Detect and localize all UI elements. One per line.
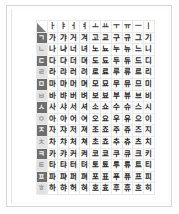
syllable-cell: 뉴 <box>122 44 133 56</box>
syllable-cell: 초 <box>90 136 101 148</box>
column-header-vowel: ㅑ <box>58 21 69 33</box>
syllable-cell: 티 <box>143 160 154 172</box>
syllable-cell: 키 <box>143 148 154 160</box>
syllable-cell: 버 <box>69 90 80 102</box>
syllable-cell: 큐 <box>122 148 133 160</box>
syllable-cell: 토 <box>90 160 101 172</box>
column-header-vowel: ㅓ <box>69 21 80 33</box>
table-header: ㅏ ㅑ ㅓ ㅕ ㅗ ㅛ ㅜ ㅠ ㅡ ㅣ <box>37 21 155 33</box>
syllable-cell: 고 <box>90 32 101 44</box>
syllable-cell: 햐 <box>58 183 69 195</box>
syllable-cell: 댜 <box>58 55 69 67</box>
table-row: ㅁ마먀머며모묘무뮤므미 <box>37 78 155 90</box>
syllable-cell: 벼 <box>79 90 90 102</box>
row-header-consonant: ㅇ <box>37 113 48 125</box>
row-header-consonant: ㅋ <box>37 148 48 160</box>
syllable-cell: 처 <box>69 136 80 148</box>
syllable-cell: 미 <box>143 78 154 90</box>
column-header-vowel: ㅏ <box>47 21 58 33</box>
syllable-cell: 추 <box>111 136 122 148</box>
diagonal-triangle-icon <box>37 23 46 32</box>
syllable-cell: 터 <box>69 160 80 172</box>
syllable-cell: 노 <box>90 44 101 56</box>
syllable-cell: 으 <box>133 113 144 125</box>
syllable-cell: 듀 <box>122 55 133 67</box>
syllable-cell: 혀 <box>79 183 90 195</box>
syllable-cell: 기 <box>143 32 154 44</box>
syllable-cell: 갸 <box>58 32 69 44</box>
row-header-consonant: ㄱ <box>37 32 48 44</box>
syllable-cell: 서 <box>69 102 80 114</box>
syllable-cell: 튜 <box>122 160 133 172</box>
syllable-cell: 너 <box>69 44 80 56</box>
syllable-cell: 츠 <box>133 136 144 148</box>
syllable-cell: 펴 <box>79 171 90 183</box>
syllable-cell: 요 <box>101 113 112 125</box>
syllable-cell: 규 <box>122 32 133 44</box>
syllable-cell: 쿠 <box>111 148 122 160</box>
syllable-cell: 텨 <box>79 160 90 172</box>
syllable-cell: 모 <box>90 78 101 90</box>
syllable-cell: 됴 <box>101 55 112 67</box>
syllable-cell: 두 <box>111 55 122 67</box>
column-header-vowel: ㅗ <box>90 21 101 33</box>
syllable-cell: 교 <box>101 32 112 44</box>
row-header-consonant: ㅍ <box>37 171 48 183</box>
syllable-cell: 코 <box>90 148 101 160</box>
row-header-consonant: ㅊ <box>37 136 48 148</box>
syllable-cell: 랴 <box>58 67 69 79</box>
syllable-cell: 쵸 <box>101 136 112 148</box>
syllable-cell: 므 <box>133 78 144 90</box>
syllable-cell: 도 <box>90 55 101 67</box>
syllable-cell: 머 <box>69 78 80 90</box>
table-row: ㅋ카캬커켜코쿄쿠큐크키 <box>37 148 155 160</box>
syllable-cell: 뱌 <box>58 90 69 102</box>
syllable-cell: 휴 <box>122 183 133 195</box>
column-header-vowel: ㅜ <box>111 21 122 33</box>
syllable-cell: 져 <box>79 125 90 137</box>
table-row: ㅈ자쟈저져조죠주쥬즈지 <box>37 125 155 137</box>
syllable-cell: 뇨 <box>101 44 112 56</box>
syllable-cell: 히 <box>143 183 154 195</box>
syllable-cell: 며 <box>79 78 90 90</box>
syllable-cell: 라 <box>47 67 58 79</box>
row-header-consonant: ㄹ <box>37 67 48 79</box>
table-row: ㅎ하햐허혀호효후휴흐히 <box>37 183 155 195</box>
row-header-consonant: ㄴ <box>37 44 48 56</box>
syllable-cell: 뷰 <box>122 90 133 102</box>
syllable-cell: 쥬 <box>122 125 133 137</box>
syllable-cell: 피 <box>143 171 154 183</box>
row-header-consonant: ㅁ <box>37 78 48 90</box>
syllable-cell: 거 <box>69 32 80 44</box>
syllable-cell: 파 <box>47 171 58 183</box>
syllable-cell: 자 <box>47 125 58 137</box>
syllable-cell: 퍼 <box>69 171 80 183</box>
syllable-cell: 그 <box>133 32 144 44</box>
syllable-cell: 쿄 <box>101 148 112 160</box>
column-header-vowel: ㅡ <box>133 21 144 33</box>
syllable-cell: 니 <box>143 44 154 56</box>
syllable-cell: 소 <box>90 102 101 114</box>
syllable-cell: 마 <box>47 78 58 90</box>
syllable-cell: 포 <box>90 171 101 183</box>
syllable-cell: 커 <box>69 148 80 160</box>
syllable-cell: 리 <box>143 67 154 79</box>
syllable-cell: 드 <box>133 55 144 67</box>
syllable-cell: 브 <box>133 90 144 102</box>
syllable-cell: 퍄 <box>58 171 69 183</box>
syllable-cell: 셔 <box>79 102 90 114</box>
row-header-consonant: ㅂ <box>37 90 48 102</box>
syllable-cell: 오 <box>90 113 101 125</box>
syllable-cell: 뎌 <box>79 55 90 67</box>
syllable-cell: 류 <box>122 67 133 79</box>
syllable-cell: 쳐 <box>79 136 90 148</box>
syllable-cell: 구 <box>111 32 122 44</box>
syllable-cell: 슈 <box>122 102 133 114</box>
syllable-cell: 저 <box>69 125 80 137</box>
syllable-cell: 아 <box>47 113 58 125</box>
column-header-vowel: ㅛ <box>101 21 112 33</box>
syllable-cell: 스 <box>133 102 144 114</box>
corner-diagonal-cell <box>37 21 48 33</box>
syllable-cell: 타 <box>47 160 58 172</box>
syllable-cell: 치 <box>143 136 154 148</box>
